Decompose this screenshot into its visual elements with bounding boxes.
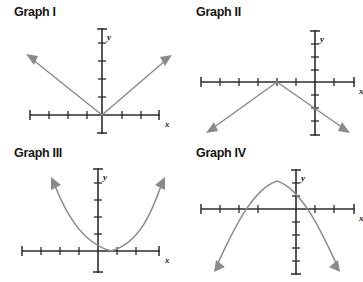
graph-iii-plot: x y [0, 141, 181, 282]
graph-comparison-figure: Graph I [0, 0, 363, 282]
graph-iv-plot: x y [182, 141, 363, 282]
graph-panel-3: Graph III x y [0, 141, 181, 282]
curve-arrowhead-right [329, 260, 340, 272]
inverted-absolute-value-curve [206, 82, 350, 133]
x-axis-label: x [358, 86, 363, 96]
downward-parabola-curve [214, 181, 340, 272]
curve-arrowhead-left [26, 54, 38, 65]
curve-arrowhead-left [214, 260, 225, 272]
y-axis-label: y [106, 32, 112, 42]
graph-panel-4: Graph IV [182, 141, 363, 282]
x-axis-label: x [164, 255, 170, 265]
curve-arrowhead-right [338, 122, 350, 133]
y-axis-label: y [102, 172, 108, 182]
x-axis-label: x [164, 119, 170, 129]
graph-panel-1: Graph I [0, 0, 181, 141]
y-axis-label: y [300, 173, 306, 183]
curve-arrowhead-left [206, 122, 218, 133]
graph-i-plot: x y [0, 0, 181, 141]
absolute-value-curve [26, 54, 172, 115]
graph-panel-2: Graph II [182, 0, 363, 141]
graph-ii-plot: x y [182, 0, 363, 141]
x-axis-label: x [358, 213, 363, 223]
y-axis-label: y [319, 34, 325, 44]
upward-parabola-curve [51, 177, 165, 251]
